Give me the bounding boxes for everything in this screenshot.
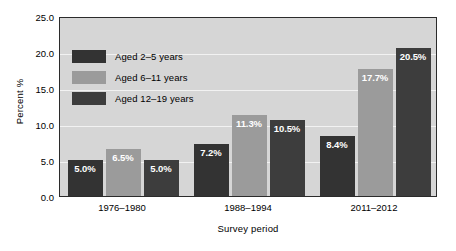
legend-swatch bbox=[72, 71, 106, 84]
bar: 11.3% bbox=[232, 115, 267, 196]
bar: 7.2% bbox=[194, 144, 229, 196]
y-axis-tick-label: 10.0 bbox=[14, 120, 54, 131]
y-axis-tick-label: 15.0 bbox=[14, 84, 54, 95]
legend-swatch bbox=[72, 92, 106, 105]
bar: 6.5% bbox=[106, 149, 141, 196]
bar: 5.0% bbox=[144, 160, 179, 196]
bar-value-label: 5.0% bbox=[144, 163, 179, 174]
bar: 5.0% bbox=[68, 160, 103, 196]
y-axis-tick-label: 25.0 bbox=[14, 12, 54, 23]
plot-area: 5.0%6.5%5.0%7.2%11.3%10.5%8.4%17.7%20.5%… bbox=[59, 17, 437, 197]
bar: 17.7% bbox=[358, 69, 393, 196]
x-axis-title: Survey period bbox=[59, 223, 437, 234]
x-axis-tick-label: 2011–2012 bbox=[351, 202, 398, 213]
bar-value-label: 11.3% bbox=[232, 118, 267, 129]
bar-value-label: 6.5% bbox=[106, 152, 141, 163]
bar: 20.5% bbox=[396, 48, 431, 196]
legend-label: Aged 12–19 years bbox=[115, 93, 194, 104]
chart-legend: Aged 2–5 yearsAged 6–11 yearsAged 12–19 … bbox=[72, 50, 194, 113]
x-axis-tick-labels: 1976–19801988–19942011–2012 bbox=[59, 202, 437, 216]
bar-value-label: 10.5% bbox=[270, 123, 305, 134]
y-axis-tick-labels: 0.05.010.015.020.025.0 bbox=[14, 17, 54, 197]
x-axis-tick-label: 1988–1994 bbox=[224, 202, 272, 213]
y-axis-tick-label: 0.0 bbox=[14, 192, 54, 203]
bar-chart-figure: Percent % 0.05.010.015.020.025.0 5.0%6.5… bbox=[0, 0, 456, 251]
legend-swatch bbox=[72, 50, 106, 63]
legend-item: Aged 2–5 years bbox=[72, 50, 194, 63]
bar-value-label: 5.0% bbox=[68, 163, 103, 174]
bar-value-label: 17.7% bbox=[358, 72, 393, 83]
bar: 10.5% bbox=[270, 120, 305, 196]
legend-label: Aged 2–5 years bbox=[115, 51, 183, 62]
y-axis-tick-label: 5.0 bbox=[14, 156, 54, 167]
legend-label: Aged 6–11 years bbox=[115, 72, 188, 83]
bar-value-label: 7.2% bbox=[194, 147, 229, 158]
x-axis-tick-label: 1976–1980 bbox=[98, 202, 146, 213]
bar-value-label: 8.4% bbox=[320, 139, 355, 150]
legend-item: Aged 12–19 years bbox=[72, 92, 194, 105]
bar-value-label: 20.5% bbox=[396, 51, 431, 62]
legend-item: Aged 6–11 years bbox=[72, 71, 194, 84]
y-axis-tick-label: 20.0 bbox=[14, 48, 54, 59]
bar: 8.4% bbox=[320, 136, 355, 196]
